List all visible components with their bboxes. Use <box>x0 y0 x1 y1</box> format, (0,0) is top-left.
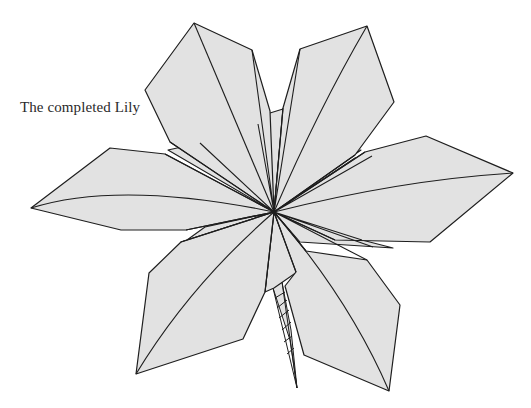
lily-diagram <box>0 0 531 408</box>
petal-bottom-left <box>136 212 274 374</box>
center-point <box>272 210 276 214</box>
